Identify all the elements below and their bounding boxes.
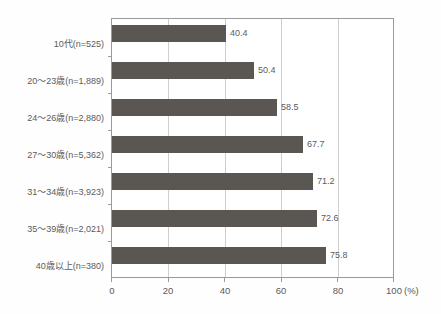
plot-area: 40.4 50.4 58.5 67.7 71.2 72.6 75.8	[111, 18, 394, 278]
bar	[112, 136, 303, 153]
bar	[112, 247, 326, 264]
category-label: 10代(n=525)	[0, 39, 104, 49]
category-label: 27〜30歳(n=5,362)	[0, 150, 104, 160]
y-axis-tick	[108, 204, 112, 205]
x-axis-tick-label: 60	[276, 285, 287, 296]
bar-value-label: 67.7	[307, 139, 325, 149]
y-axis-tick	[108, 56, 112, 57]
bar	[112, 99, 277, 116]
x-axis-tick-label: 100	[386, 285, 402, 296]
category-label: 24〜26歳(n=2,880)	[0, 113, 104, 123]
bar-value-label: 40.4	[230, 28, 248, 38]
x-axis-tick	[168, 278, 169, 282]
bar-value-label: 58.5	[281, 102, 299, 112]
x-axis-tick	[337, 278, 338, 282]
category-label: 40歳以上(n=380)	[0, 261, 104, 271]
bar	[112, 25, 226, 42]
x-axis-tick	[281, 278, 282, 282]
gridline-80	[338, 19, 339, 277]
x-axis-tick	[393, 278, 394, 282]
x-axis-tick	[111, 278, 112, 282]
bar	[112, 173, 313, 190]
category-label: 20〜23歳(n=1,889)	[0, 76, 104, 86]
bar-value-label: 75.8	[330, 250, 348, 260]
category-label: 31〜34歳(n=3,923)	[0, 187, 104, 197]
y-axis-tick	[108, 130, 112, 131]
bar-value-label: 72.6	[321, 213, 339, 223]
x-axis-tick	[224, 278, 225, 282]
category-label: 35〜39歳(n=2,021)	[0, 224, 104, 234]
y-axis-tick	[108, 93, 112, 94]
x-axis-tick-label: 20	[163, 285, 174, 296]
x-axis-tick-label: 80	[333, 285, 344, 296]
category-axis-labels: 10代(n=525) 20〜23歳(n=1,889) 24〜26歳(n=2,88…	[0, 18, 108, 278]
bar-value-label: 50.4	[258, 65, 276, 75]
bar-chart: 10代(n=525) 20〜23歳(n=1,889) 24〜26歳(n=2,88…	[0, 0, 441, 314]
x-axis-tick-label: 40	[220, 285, 231, 296]
y-axis-tick	[108, 241, 112, 242]
x-axis-unit-label: (%)	[404, 285, 419, 296]
y-axis-tick	[108, 167, 112, 168]
bar	[112, 62, 254, 79]
bar-value-label: 71.2	[317, 176, 335, 186]
bar	[112, 210, 317, 227]
x-axis-tick-label: 0	[109, 285, 114, 296]
